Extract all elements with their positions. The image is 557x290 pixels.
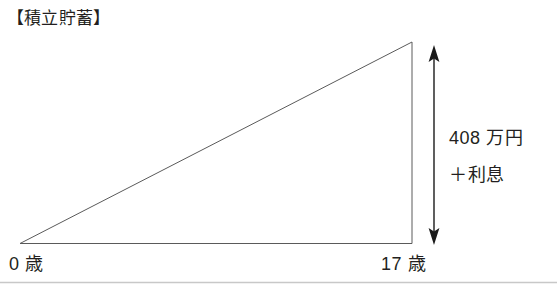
amount-value-label: 408 万円: [449, 120, 553, 157]
axis-label-start-age: 0 歳: [9, 253, 44, 275]
interest-note-label: ＋利息: [449, 157, 553, 194]
axis-label-end-age: 17 歳: [381, 253, 426, 275]
amount-annotation: 408 万円 ＋利息: [449, 120, 553, 194]
savings-diagram-figure: 【積立貯蓄】 408 万円 ＋利息 0 歳 17 歳: [0, 0, 557, 290]
amount-measure-arrow: [429, 45, 440, 245]
savings-growth-triangle: [20, 42, 412, 244]
